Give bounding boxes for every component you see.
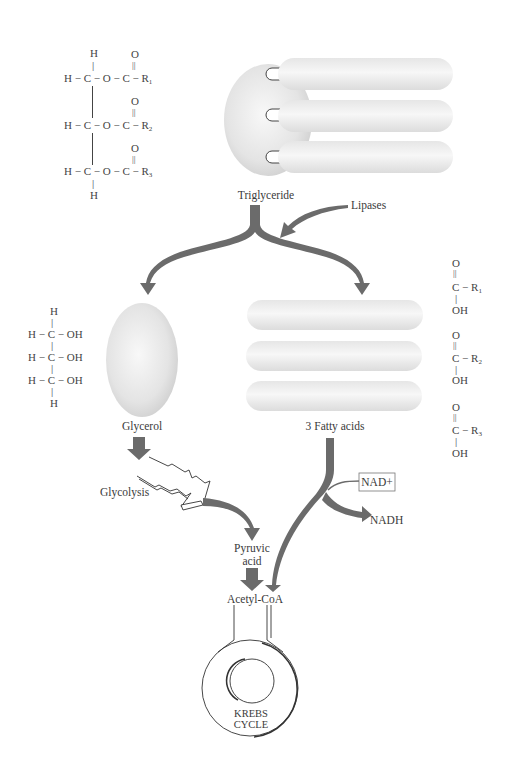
glycolysis-label: Glycolysis [100, 486, 149, 498]
triglyceride-row-1: H − C − O − C − R1 [64, 73, 152, 86]
formula-h-bottom: H [90, 190, 98, 201]
glycerol-row-1: H − C − OH [28, 329, 83, 340]
glycerol-row-3: H − C − OH [28, 375, 83, 386]
triglyceride-row-3: H − C − O − C − R3 [64, 166, 152, 179]
formula-bond: | [51, 340, 53, 351]
fatty-acids-label: 3 Fatty acids [290, 420, 380, 432]
triglyceride-shape [224, 58, 453, 176]
krebs-label: KREBS [226, 708, 276, 719]
formula-bond: | [51, 386, 53, 397]
acid-label: acid [222, 555, 282, 567]
glycerol-label: Glycerol [102, 420, 182, 432]
glycolysis-to-pyruvic-arrow [203, 498, 260, 541]
formula-backbone [92, 86, 93, 118]
acetyl-coa-label: Acetyl-CoA [215, 593, 295, 605]
formula-backbone [92, 133, 93, 165]
nadh-label: NADH [370, 514, 403, 526]
double-bond: || [132, 155, 136, 164]
carbonyl-o-1: O [131, 49, 139, 60]
lipases-arrow [280, 205, 348, 238]
glycerol-down-arrow [127, 437, 151, 460]
glycolysis-zigzag [137, 457, 210, 510]
formula-h-top: H [90, 48, 98, 59]
pyruvic-to-acetyl-arrow [240, 568, 264, 591]
fatty-acid-shapes [246, 300, 423, 411]
double-bond: || [132, 108, 136, 117]
glycerol-shape [106, 303, 178, 417]
formula-bond: | [92, 178, 94, 189]
fatty-acid-to-acetyl-arrow [265, 438, 372, 592]
nad-plus-label: NAD+ [359, 476, 395, 488]
formula-bond: | [51, 317, 53, 328]
nad-connector [328, 481, 360, 490]
carbonyl-o-3: O [131, 143, 139, 154]
formula-bond: | [51, 363, 53, 374]
triglyceride-row-2: H − C − O − C − R2 [64, 120, 152, 133]
formula-bond: | [92, 60, 94, 71]
double-bond: || [132, 61, 136, 70]
glycerol-h-bottom: H [50, 398, 58, 409]
glycerol-row-2: H − C − OH [28, 352, 83, 363]
triglyceride-label: Triglyceride [226, 189, 306, 201]
split-arrow [140, 205, 370, 295]
lipases-label: Lipases [351, 199, 386, 211]
pyruvic-label: Pyruvic [222, 542, 282, 554]
carbonyl-o-2: O [131, 96, 139, 107]
cycle-label: CYCLE [226, 719, 276, 730]
